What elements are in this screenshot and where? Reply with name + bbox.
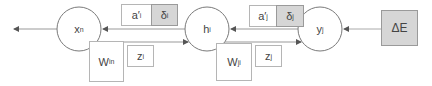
weight-w-in-box: Win (89, 41, 124, 82)
node-yj: yj (298, 7, 342, 51)
z-i-box: zi (127, 45, 154, 67)
a-prime-i-box: a′i (121, 4, 152, 26)
delta-i-box: δi (151, 4, 178, 26)
a-prime-j-box: a′j (249, 5, 277, 27)
error-delta-e-box: ΔE (381, 10, 418, 46)
z-j-box: zj (255, 45, 282, 67)
delta-j-box: δj (276, 5, 304, 27)
weight-w-ji-box: Wji (216, 43, 252, 81)
